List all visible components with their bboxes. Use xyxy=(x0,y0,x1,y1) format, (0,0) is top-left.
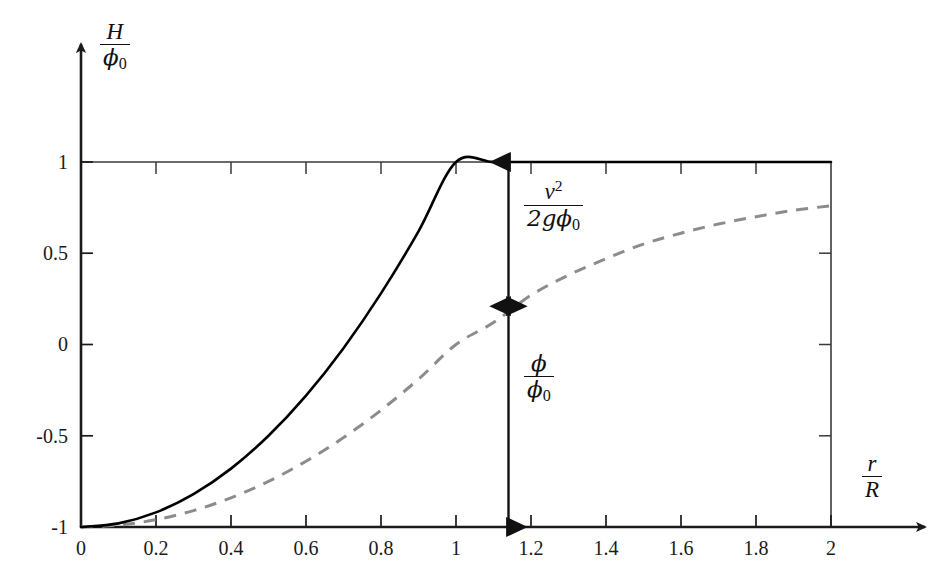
kinetic-head-denominator: 2gϕ0 xyxy=(524,206,583,233)
x-tick-label-1-2: 1.2 xyxy=(519,538,544,558)
x-axis-title: r R xyxy=(862,452,882,502)
potential-head-denominator: ϕ0 xyxy=(524,377,554,404)
x-tick-label-0: 0 xyxy=(76,538,86,558)
y-tick-label-1: 1 xyxy=(38,152,68,172)
y-tick-label-minus-1: -1 xyxy=(28,517,68,537)
phi-subscript: 0 xyxy=(119,55,127,72)
kinetic-head-label: v2 2gϕ0 xyxy=(524,178,583,233)
potential-phi-subscript: 0 xyxy=(543,387,551,404)
two-g-phi-symbol: 2gϕ xyxy=(527,205,572,231)
x-axis-title-numerator: r xyxy=(862,452,882,477)
velocity-exponent: 2 xyxy=(555,177,563,194)
y-tick-label-0-5: 0.5 xyxy=(18,243,68,263)
y-axis-title: H ϕ0 xyxy=(100,20,130,73)
potential-dashed-curve xyxy=(81,206,831,527)
velocity-symbol: v xyxy=(545,179,555,204)
y-tick-marks xyxy=(81,162,93,527)
x-tick-label-1-6: 1.6 xyxy=(669,538,694,558)
x-tick-label-1-8: 1.8 xyxy=(744,538,769,558)
x-tick-label-2: 2 xyxy=(826,538,836,558)
y-tick-label-minus-0-5: -0.5 xyxy=(8,426,68,446)
x-tick-label-0-4: 0.4 xyxy=(219,538,244,558)
y-axis-title-denominator: ϕ0 xyxy=(100,45,130,72)
plot-svg xyxy=(0,0,951,579)
x-tick-label-0-8: 0.8 xyxy=(369,538,394,558)
x-tick-label-0-6: 0.6 xyxy=(294,538,319,558)
y-tick-label-0: 0 xyxy=(38,334,68,354)
y-axis-title-numerator: H xyxy=(100,20,130,45)
potential-phi-symbol: ϕ xyxy=(527,376,543,402)
total-head-solid-curve xyxy=(81,157,831,527)
y-tick-marks-right xyxy=(819,253,831,436)
potential-head-numerator: ϕ xyxy=(524,352,554,377)
x-tick-label-1-4: 1.4 xyxy=(594,538,619,558)
x-tick-label-1: 1 xyxy=(451,538,461,558)
x-tick-label-0-2: 0.2 xyxy=(144,538,169,558)
kinetic-head-numerator: v2 xyxy=(524,178,583,206)
figure-canvas: 1 0.5 0 -0.5 -1 0 0.2 0.4 0.6 0.8 1 1.2 … xyxy=(0,0,951,579)
x-tick-marks-bottom xyxy=(156,515,831,527)
phi-symbol: ϕ xyxy=(103,44,119,70)
x-axis-title-denominator: R xyxy=(862,477,882,501)
two-g-phi-subscript: 0 xyxy=(572,216,580,233)
potential-head-label: ϕ ϕ0 xyxy=(524,352,554,405)
